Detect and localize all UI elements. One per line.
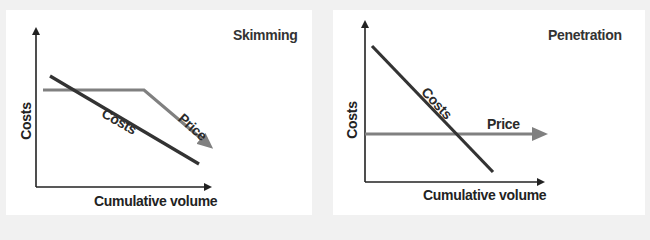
skimming-chart: [36, 29, 210, 187]
x-axis-label: Cumulative volume: [423, 187, 546, 203]
price-line-label: Price: [487, 116, 520, 132]
y-axis-label: Costs: [18, 99, 34, 143]
penetration-chart: [365, 22, 543, 182]
y-axis-label: Costs: [344, 98, 360, 142]
penetration-title: Penetration: [548, 27, 622, 43]
skimming-title: Skimming: [233, 27, 298, 43]
x-axis-label: Cumulative volume: [94, 193, 217, 209]
